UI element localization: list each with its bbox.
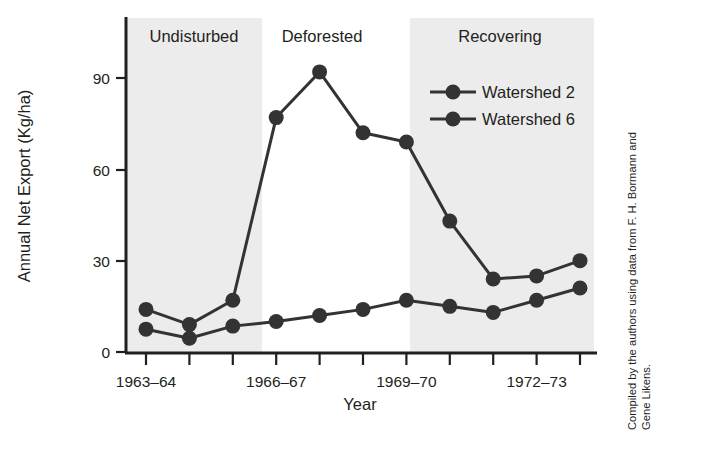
y-axis-title: Annual Net Export (Kg/ha) xyxy=(15,90,33,283)
y-tick-label-90: 90 xyxy=(93,70,111,87)
data-point[interactable] xyxy=(529,268,544,283)
data-point[interactable] xyxy=(139,322,154,337)
data-point[interactable] xyxy=(356,302,371,317)
data-point[interactable] xyxy=(399,134,414,149)
x-tick-label-3: 1972–73 xyxy=(506,373,566,390)
data-point[interactable] xyxy=(269,110,284,125)
data-point[interactable] xyxy=(442,299,457,314)
band-deforested xyxy=(262,18,410,352)
data-point[interactable] xyxy=(182,331,197,346)
legend-marker-icon xyxy=(446,112,461,127)
data-point[interactable] xyxy=(356,125,371,140)
y-axis-tick-labels: 90 60 30 0 xyxy=(93,70,111,361)
legend-item-2[interactable]: Watershed 6 xyxy=(430,110,575,128)
x-axis-title: Year xyxy=(343,395,377,413)
data-point[interactable] xyxy=(225,293,240,308)
y-tick-label-0: 0 xyxy=(101,344,110,361)
credit-line-2: Gene Likens. xyxy=(640,364,652,430)
data-point[interactable] xyxy=(182,317,197,332)
y-tick-label-30: 30 xyxy=(93,253,111,270)
data-point[interactable] xyxy=(573,253,588,268)
line-chart: Undisturbed Deforested Recovering 90 60 … xyxy=(0,0,702,453)
x-axis-ticks xyxy=(146,353,580,365)
period-bands xyxy=(126,18,594,352)
credit-line-1: Compiled by the authors using data from … xyxy=(626,132,638,430)
data-point[interactable] xyxy=(312,64,327,79)
x-axis-tick-labels: 1963–641966–671969–701972–73 xyxy=(116,373,567,390)
band-label-recovering: Recovering xyxy=(458,27,541,45)
x-tick-label-1: 1966–67 xyxy=(246,373,306,390)
band-label-undisturbed: Undisturbed xyxy=(150,27,239,45)
legend-marker-icon xyxy=(446,85,461,100)
data-point[interactable] xyxy=(529,293,544,308)
band-recovering xyxy=(410,18,594,352)
data-point[interactable] xyxy=(225,319,240,334)
data-point[interactable] xyxy=(312,308,327,323)
legend-item-1[interactable]: Watershed 2 xyxy=(430,83,575,101)
data-point[interactable] xyxy=(486,271,501,286)
legend-label-2: Watershed 6 xyxy=(482,110,575,128)
data-point[interactable] xyxy=(269,314,284,329)
y-tick-label-60: 60 xyxy=(93,162,111,179)
band-label-deforested: Deforested xyxy=(282,27,363,45)
data-point[interactable] xyxy=(139,302,154,317)
data-point[interactable] xyxy=(573,281,588,296)
legend-label-1: Watershed 2 xyxy=(482,83,575,101)
data-point[interactable] xyxy=(486,305,501,320)
data-point[interactable] xyxy=(399,293,414,308)
x-tick-label-2: 1969–70 xyxy=(376,373,437,390)
x-tick-label-0: 1963–64 xyxy=(116,373,177,390)
data-point[interactable] xyxy=(442,214,457,229)
figure-container: Undisturbed Deforested Recovering 90 60 … xyxy=(0,0,702,453)
